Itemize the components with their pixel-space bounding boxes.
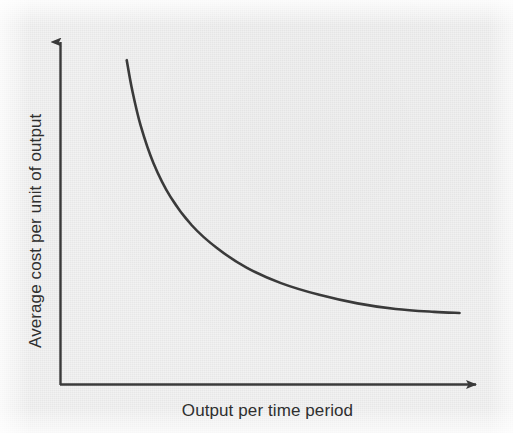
chart-plot-area — [0, 0, 513, 433]
y-axis-label: Average cost per unit of output — [26, 48, 46, 348]
chart-figure: Average cost per unit of output Output p… — [0, 0, 513, 433]
average-cost-curve — [127, 60, 460, 313]
x-axis-label: Output per time period — [0, 401, 513, 421]
